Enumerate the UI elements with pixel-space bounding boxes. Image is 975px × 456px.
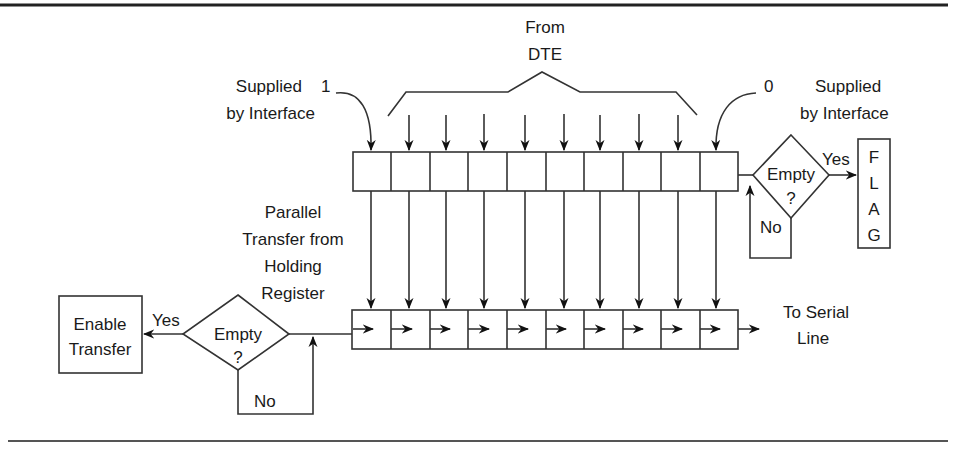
- supplied-right-label: 0 Supplied by Interface: [764, 77, 889, 123]
- svg-text:Supplied: Supplied: [815, 77, 881, 96]
- parallel-transfer-arrows: [371, 191, 716, 308]
- uart-transmit-diagram: From DTE Supplied by Interface 1 0 Suppl…: [0, 0, 975, 456]
- holding-register: [353, 152, 738, 191]
- svg-text:?: ?: [786, 189, 795, 208]
- svg-text:by Interface: by Interface: [800, 104, 889, 123]
- svg-text:Parallel: Parallel: [265, 203, 322, 222]
- svg-text:A: A: [868, 200, 880, 219]
- svg-text:?: ?: [233, 348, 242, 367]
- svg-text:DTE: DTE: [528, 45, 562, 64]
- svg-text:by Interface: by Interface: [226, 104, 315, 123]
- enable-transfer-box: [59, 296, 142, 373]
- right-yes-label: Yes: [822, 150, 850, 169]
- supplied-left-label: Supplied by Interface 1: [226, 77, 330, 123]
- svg-text:Empty: Empty: [767, 165, 816, 184]
- svg-text:To Serial: To Serial: [783, 303, 849, 322]
- svg-text:Transfer: Transfer: [69, 340, 132, 359]
- svg-text:G: G: [867, 226, 880, 245]
- bit-one-label: 1: [321, 77, 330, 96]
- left-yes-label: Yes: [152, 311, 180, 330]
- svg-text:Transfer from: Transfer from: [242, 230, 343, 249]
- svg-text:Empty: Empty: [214, 325, 263, 344]
- parallel-transfer-label: Parallel Transfer from Holding Register: [242, 203, 343, 303]
- svg-text:Enable: Enable: [74, 315, 127, 334]
- dte-brace: [388, 72, 697, 116]
- right-no-label: No: [760, 218, 782, 237]
- svg-text:F: F: [869, 148, 879, 167]
- from-dte-label: From DTE: [525, 18, 565, 64]
- bit-zero-arrow: [716, 93, 756, 150]
- dte-input-arrows: [409, 114, 678, 150]
- svg-text:From: From: [525, 18, 565, 37]
- svg-text:Line: Line: [797, 329, 829, 348]
- left-no-label: No: [254, 392, 276, 411]
- svg-text:L: L: [869, 174, 878, 193]
- serial-line-label: To Serial Line: [783, 303, 849, 348]
- svg-text:Register: Register: [261, 284, 325, 303]
- bit-zero-label: 0: [764, 77, 773, 96]
- bit-one-arrow: [336, 93, 371, 150]
- svg-text:Holding: Holding: [264, 257, 322, 276]
- svg-text:Supplied: Supplied: [236, 77, 302, 96]
